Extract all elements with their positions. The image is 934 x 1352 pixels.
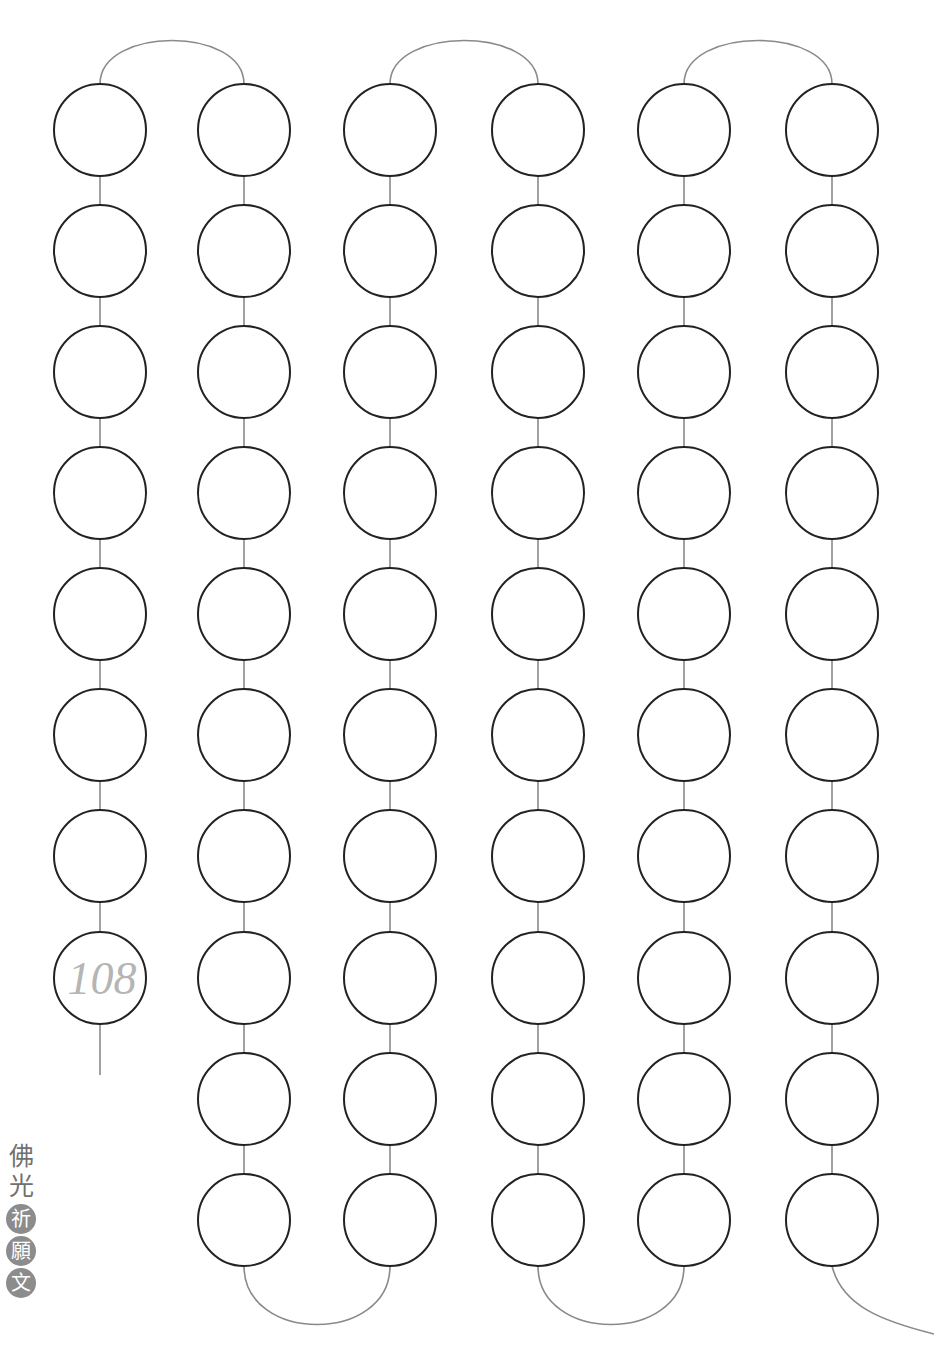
bead[interactable]	[344, 447, 436, 539]
bead[interactable]	[344, 568, 436, 660]
bead[interactable]	[638, 326, 730, 418]
bead-grid	[54, 84, 878, 1266]
title-badge-char: 文	[6, 1268, 36, 1298]
bead[interactable]	[492, 932, 584, 1024]
string-segment	[684, 41, 832, 85]
bead[interactable]	[492, 326, 584, 418]
bead[interactable]	[492, 1174, 584, 1266]
bead[interactable]	[492, 568, 584, 660]
bead[interactable]	[344, 932, 436, 1024]
string-segment	[832, 1266, 934, 1334]
bead[interactable]	[198, 568, 290, 660]
bead[interactable]	[54, 689, 146, 781]
bead[interactable]	[492, 205, 584, 297]
bead[interactable]	[786, 84, 878, 176]
title-char: 光	[9, 1172, 34, 1202]
bead[interactable]	[54, 447, 146, 539]
bead[interactable]	[786, 1174, 878, 1266]
bead[interactable]	[344, 326, 436, 418]
bead[interactable]	[786, 568, 878, 660]
bead[interactable]	[198, 326, 290, 418]
bead[interactable]	[492, 810, 584, 902]
bead[interactable]	[786, 447, 878, 539]
bead[interactable]	[344, 810, 436, 902]
bead[interactable]	[638, 932, 730, 1024]
bead[interactable]	[198, 84, 290, 176]
bead[interactable]	[344, 1053, 436, 1145]
title-badge-char: 祈	[6, 1204, 36, 1234]
bead[interactable]	[638, 810, 730, 902]
bead[interactable]	[786, 205, 878, 297]
bead[interactable]	[638, 205, 730, 297]
mala-bead-chart: 108	[0, 0, 934, 1352]
bead[interactable]	[198, 810, 290, 902]
string-segment	[244, 1266, 390, 1325]
bead[interactable]	[786, 810, 878, 902]
bead[interactable]	[492, 84, 584, 176]
bead[interactable]	[54, 326, 146, 418]
bead[interactable]	[54, 568, 146, 660]
bead[interactable]	[786, 689, 878, 781]
bead[interactable]	[786, 1053, 878, 1145]
bead[interactable]	[344, 205, 436, 297]
bead[interactable]	[786, 932, 878, 1024]
bead[interactable]	[786, 326, 878, 418]
bead[interactable]	[492, 447, 584, 539]
bead[interactable]	[198, 689, 290, 781]
string-segment	[100, 41, 244, 85]
bead[interactable]	[492, 689, 584, 781]
bead[interactable]	[344, 689, 436, 781]
bead[interactable]	[54, 84, 146, 176]
bead[interactable]	[54, 810, 146, 902]
bead[interactable]	[198, 447, 290, 539]
string-segment	[390, 41, 538, 85]
bead[interactable]	[198, 205, 290, 297]
bead[interactable]	[492, 1053, 584, 1145]
bead[interactable]	[638, 568, 730, 660]
bead[interactable]	[638, 447, 730, 539]
bead-count-label: 108	[68, 953, 137, 1004]
title-badge-char: 願	[6, 1236, 36, 1266]
bead[interactable]	[638, 1174, 730, 1266]
bead[interactable]	[638, 84, 730, 176]
bead[interactable]	[198, 932, 290, 1024]
string-segment	[538, 1266, 684, 1325]
bead[interactable]	[198, 1053, 290, 1145]
bead[interactable]	[638, 1053, 730, 1145]
bead[interactable]	[638, 689, 730, 781]
bead[interactable]	[344, 84, 436, 176]
bead[interactable]	[344, 1174, 436, 1266]
bead[interactable]	[198, 1174, 290, 1266]
side-title: 佛 光 祈 願 文	[4, 1142, 38, 1298]
bead[interactable]	[54, 205, 146, 297]
title-char: 佛	[9, 1142, 34, 1172]
